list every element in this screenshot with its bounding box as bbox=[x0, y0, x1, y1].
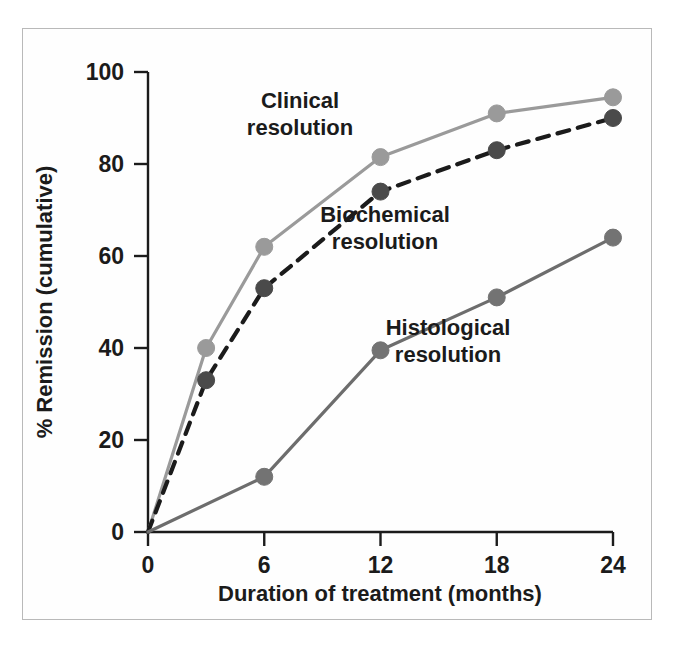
y-axis-tick-labels: 020406080100 bbox=[86, 59, 124, 545]
series-annotation-line1: Clinical bbox=[261, 88, 339, 113]
data-point-marker bbox=[256, 280, 273, 297]
line-chart-plot: 020406080100 % Remission (cumulative) 06… bbox=[0, 0, 675, 650]
series-markers-group bbox=[198, 89, 622, 486]
data-point-marker bbox=[256, 238, 273, 255]
data-point-marker bbox=[605, 89, 622, 106]
y-tick-label: 100 bbox=[86, 59, 124, 85]
x-axis-title: Duration of treatment (months) bbox=[218, 581, 542, 606]
data-point-marker bbox=[488, 142, 505, 159]
data-point-marker bbox=[372, 183, 389, 200]
data-point-marker bbox=[256, 468, 273, 485]
x-axis-tick-labels: 06121824 bbox=[142, 552, 626, 578]
data-point-marker bbox=[605, 110, 622, 127]
data-point-marker bbox=[605, 229, 622, 246]
x-tick-label: 18 bbox=[484, 552, 510, 578]
data-point-marker bbox=[488, 289, 505, 306]
x-tick-label: 0 bbox=[142, 552, 155, 578]
x-axis-tick-marks bbox=[148, 532, 613, 546]
series-annotations-group: ClinicalresolutionBiochemicalresolutionH… bbox=[247, 88, 511, 367]
series-annotation-line2: resolution bbox=[247, 115, 353, 140]
x-tick-label: 6 bbox=[258, 552, 271, 578]
y-axis-title: % Remission (cumulative) bbox=[32, 166, 57, 439]
figure-container: 020406080100 % Remission (cumulative) 06… bbox=[0, 0, 675, 650]
series-annotation-line2: resolution bbox=[332, 229, 438, 254]
data-point-marker bbox=[372, 342, 389, 359]
data-point-marker bbox=[198, 372, 215, 389]
data-point-marker bbox=[372, 149, 389, 166]
series-annotation-line1: Biochemical bbox=[320, 202, 450, 227]
y-tick-label: 0 bbox=[111, 519, 124, 545]
data-point-marker bbox=[488, 105, 505, 122]
data-point-marker bbox=[198, 340, 215, 357]
series-annotation-0: Clinicalresolution bbox=[247, 88, 353, 140]
series-line-2 bbox=[148, 238, 613, 532]
series-annotation-line2: resolution bbox=[395, 342, 501, 367]
y-tick-label: 60 bbox=[98, 243, 124, 269]
y-axis: 020406080100 % Remission (cumulative) bbox=[32, 59, 148, 545]
x-axis: 06121824 Duration of treatment (months) bbox=[142, 532, 626, 606]
y-tick-label: 80 bbox=[98, 151, 124, 177]
x-tick-label: 24 bbox=[600, 552, 626, 578]
y-tick-label: 40 bbox=[98, 335, 124, 361]
y-tick-label: 20 bbox=[98, 427, 124, 453]
y-axis-tick-marks bbox=[134, 72, 148, 532]
x-tick-label: 12 bbox=[368, 552, 394, 578]
series-annotation-line1: Histological bbox=[386, 315, 511, 340]
